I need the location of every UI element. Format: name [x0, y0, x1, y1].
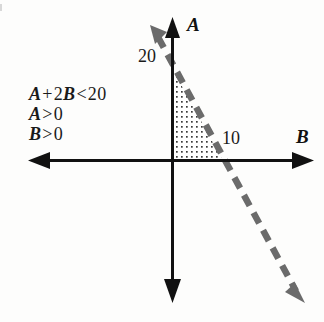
inequality-graph-figure: A+2B<20 A>0 B>0 A B 20 10: [0, 0, 324, 322]
graph-canvas: [0, 0, 324, 322]
